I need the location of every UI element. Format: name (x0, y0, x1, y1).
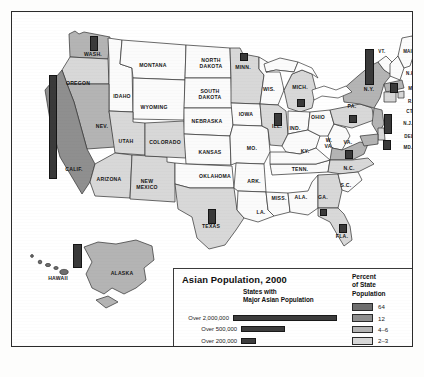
state-population-bar (90, 36, 98, 51)
legend-percent-row: 12 (352, 313, 413, 324)
legend-population-label: Over 2,000,000 (177, 315, 233, 321)
population-class-list: Over 2,000,000Over 500,000Over 200,000Ov… (177, 312, 337, 347)
state-arizona (90, 153, 132, 198)
figure-page: .s { stroke:#3a3a3a; stroke-width:0.75; … (0, 0, 424, 377)
legend-percent-swatch (352, 326, 373, 334)
legend-population-bar (241, 326, 285, 332)
state-rhodeisland (398, 91, 404, 98)
state-population-bar (73, 244, 82, 268)
legend-population-row: Over 200,000 (177, 335, 337, 347)
state-population-bar (365, 49, 374, 85)
state-missouri (230, 125, 270, 165)
state-colorado (145, 121, 186, 158)
legend-subtitle: States with Major Asian Population (243, 288, 314, 304)
legend-population-row: Over 2,000,000 (177, 312, 337, 324)
state-population-bar (345, 150, 353, 159)
legend-percent-swatch (352, 314, 373, 322)
map-figure-frame: .s { stroke:#3a3a3a; stroke-width:0.75; … (11, 11, 413, 347)
state-population-bar (349, 115, 357, 123)
state-arkansas (234, 163, 266, 192)
legend-percent-swatch (352, 337, 373, 345)
legend-population-row: Over 100,000 (177, 347, 337, 348)
state-oregon (62, 57, 109, 84)
state-population-bar (383, 140, 391, 150)
legend-population-bar (241, 338, 256, 344)
state-northcarolina (328, 158, 374, 174)
legend-percent-label: 4–6 (378, 326, 388, 333)
legend-percent-label: 12 (378, 315, 385, 322)
percent-legend-title: Percent of State Population (352, 273, 413, 298)
state-newmexico (130, 155, 175, 202)
legend-population-bar (233, 315, 337, 321)
state-southcarolina (338, 172, 362, 192)
percent-class-list: 64124–62–3Less than 2 (352, 301, 413, 347)
state-population-bar (240, 53, 248, 61)
state-nebraska (184, 108, 233, 136)
state-population-bar (297, 99, 305, 107)
legend-population-label: Over 500,000 (177, 326, 241, 332)
state-population-bar (339, 224, 347, 233)
state-alaska-tail (96, 296, 118, 308)
legend-percent-label: 2–3 (378, 337, 388, 344)
legend-percent-row: 2–3 (352, 335, 413, 346)
legend-population-row: Over 500,000 (177, 324, 337, 336)
state-population-bar (384, 114, 392, 134)
state-southdakota (184, 78, 232, 108)
state-iowa (231, 103, 262, 126)
state-northdakota (185, 45, 231, 78)
map-legend: Asian Population, 2000 States with Major… (173, 268, 413, 347)
 (84, 240, 154, 294)
state-population-bar (274, 113, 282, 126)
legend-percent-label: 64 (378, 303, 385, 310)
state-population-bar (208, 209, 216, 224)
state-georgia (318, 174, 342, 208)
state-oklahoma (175, 163, 234, 188)
state-connecticut (384, 92, 396, 102)
state-alabama (288, 175, 318, 215)
state-kansas (184, 134, 231, 165)
legend-percent-swatch (352, 303, 373, 311)
legend-percent-row: 4–6 (352, 324, 413, 335)
legend-population-label: Over 200,000 (177, 338, 241, 344)
state-wyoming (133, 78, 185, 120)
state-hawaii-islands (31, 255, 69, 275)
percent-legend-block: Percent of State Population 64124–62–3Le… (352, 273, 413, 347)
state-michigan-up (264, 58, 298, 72)
legend-percent-row: Less than 2 (352, 347, 413, 348)
state-population-bar (320, 209, 327, 216)
legend-percent-row: 64 (352, 301, 413, 312)
state-population-bar (49, 75, 57, 179)
state-population-bar (390, 83, 398, 93)
